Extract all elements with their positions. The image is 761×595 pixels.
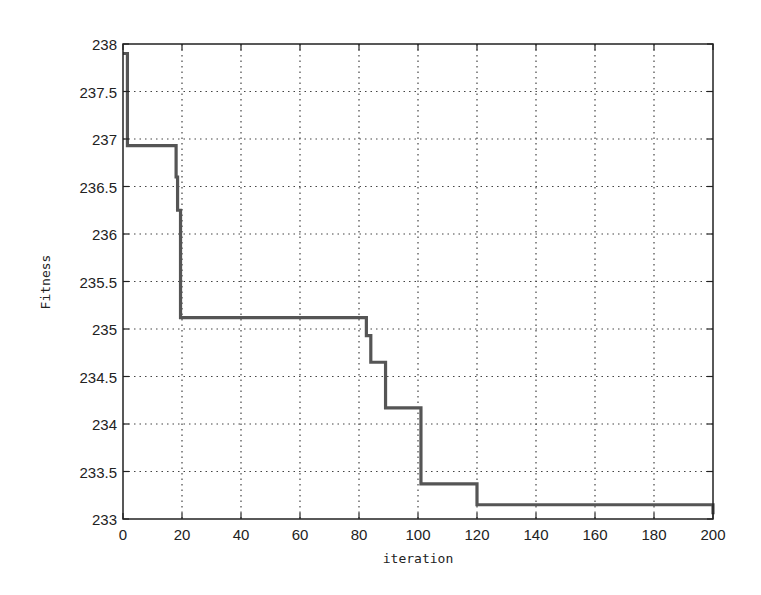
y-tick-label: 234 bbox=[92, 416, 117, 433]
y-tick-label: 237 bbox=[92, 131, 117, 148]
x-tick-label: 20 bbox=[174, 526, 191, 543]
x-tick-label: 60 bbox=[292, 526, 309, 543]
x-tick-label: 200 bbox=[700, 526, 725, 543]
x-tick-label: 0 bbox=[119, 526, 127, 543]
x-tick-label: 40 bbox=[233, 526, 250, 543]
y-tick-label: 234.5 bbox=[79, 369, 117, 386]
x-tick-label: 160 bbox=[582, 526, 607, 543]
grid-lines bbox=[123, 44, 713, 519]
x-tick-label: 80 bbox=[351, 526, 368, 543]
fitness-chart: 020406080100120140160180200 233233.52342… bbox=[0, 0, 761, 595]
x-tick-label: 180 bbox=[641, 526, 666, 543]
y-axis-label: Fitness bbox=[38, 255, 53, 310]
y-tick-label: 233.5 bbox=[79, 464, 117, 481]
y-tick-label: 235 bbox=[92, 321, 117, 338]
y-tick-label: 237.5 bbox=[79, 84, 117, 101]
y-tick-label: 236.5 bbox=[79, 179, 117, 196]
x-axis-label: iteration bbox=[383, 551, 453, 566]
fitness-curve bbox=[123, 54, 713, 515]
x-tick-label: 120 bbox=[464, 526, 489, 543]
y-tick-labels: 233233.5234234.5235235.5236236.5237237.5… bbox=[79, 36, 117, 528]
x-tick-label: 100 bbox=[405, 526, 430, 543]
y-tick-label: 233 bbox=[92, 511, 117, 528]
y-tick-label: 238 bbox=[92, 36, 117, 53]
x-tick-label: 140 bbox=[523, 526, 548, 543]
y-tick-label: 235.5 bbox=[79, 274, 117, 291]
fitness-line bbox=[123, 54, 713, 515]
y-tick-label: 236 bbox=[92, 226, 117, 243]
x-tick-labels: 020406080100120140160180200 bbox=[119, 526, 726, 543]
